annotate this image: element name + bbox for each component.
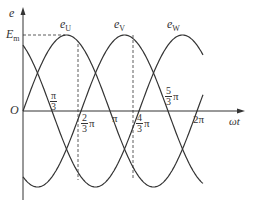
origin-label: O: [10, 104, 19, 116]
three-phase-waveform-diagram: [0, 0, 257, 210]
amplitude-label: Em: [6, 28, 20, 43]
tick-pi-3: π3: [50, 91, 57, 112]
tick-5pi-3: 53π: [165, 86, 179, 107]
y-axis-arrow-icon: [21, 7, 26, 15]
tick-pi: π: [112, 113, 118, 124]
tick-4pi-3: 43π: [136, 113, 150, 134]
y-axis-label: e: [9, 7, 14, 19]
curve-label-e-u: eU: [60, 18, 71, 33]
tick-2pi: 2π: [193, 114, 204, 125]
x-axis-label: ωt: [229, 116, 240, 127]
curve-label-e-w: eW: [167, 18, 180, 33]
tick-2pi-3: 23π: [81, 113, 95, 134]
x-axis-arrow-icon: [237, 109, 245, 114]
curve-label-e-v: eV: [114, 18, 125, 33]
